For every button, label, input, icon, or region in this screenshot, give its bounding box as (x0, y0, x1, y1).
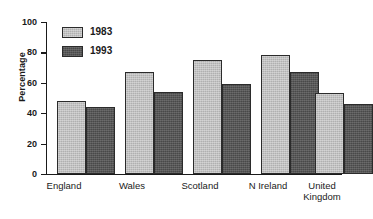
y-tick-60 (41, 83, 46, 84)
bar-united-kingdom-1983 (315, 93, 344, 174)
bar-group-scotland (193, 22, 251, 174)
y-tick-label-20: 20 (11, 140, 37, 149)
y-tick-label-80: 80 (11, 48, 37, 57)
y-tick-20 (41, 144, 46, 145)
y-tick-label-40: 40 (11, 109, 37, 118)
y-tick-label-0: 0 (11, 170, 37, 179)
bar-group-united-kingdom (315, 22, 373, 174)
bar-group-wales (125, 22, 183, 174)
x-category-label-united-kingdom: United Kingdom (285, 180, 359, 202)
y-tick-label-60: 60 (11, 79, 37, 88)
legend-swatch-1993-icon (62, 46, 83, 57)
bar-wales-1983 (125, 72, 154, 174)
legend-item-1983: 1983 (62, 25, 112, 39)
y-axis-title: Percentage (17, 17, 27, 137)
x-axis-line (46, 174, 342, 175)
legend-label-1983: 1983 (90, 27, 112, 37)
x-category-label-scotland: Scotland (163, 180, 237, 191)
bar-england-1993 (86, 107, 115, 174)
bar-scotland-1993 (222, 84, 251, 174)
legend-label-1993: 1993 (90, 46, 112, 56)
legend-item-1993: 1993 (62, 44, 112, 58)
y-tick-label-100: 100 (11, 18, 37, 27)
bar-united-kingdom-1993 (344, 104, 373, 174)
bar-wales-1993 (154, 92, 183, 174)
bar-scotland-1983 (193, 60, 222, 174)
y-tick-40 (41, 113, 46, 114)
x-category-label-wales: Wales (95, 180, 169, 191)
legend-swatch-1983-icon (62, 27, 83, 38)
bar-england-1983 (57, 101, 86, 174)
x-category-label-england: England (27, 180, 101, 191)
y-tick-80 (41, 52, 46, 53)
legend: 1983 1993 (62, 25, 112, 63)
y-tick-100 (41, 22, 46, 23)
